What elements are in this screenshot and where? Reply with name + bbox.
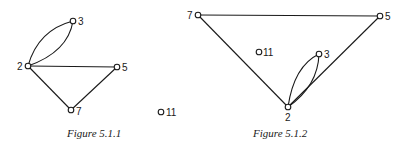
edge-7-2: [198, 15, 288, 107]
node-label-2: 2: [17, 61, 23, 72]
node-5: [377, 13, 383, 19]
node-2: [285, 104, 291, 110]
figure-5-1-1: 2 3 5 7 11 Figure 5.1.1: [17, 16, 177, 139]
edge-2-5: [28, 66, 117, 67]
graph-figures: 2 3 5 7 11 Figure 5.1.1 7 5 11 3 2 Figur…: [0, 0, 407, 144]
node-7: [68, 107, 74, 113]
node-label-7: 7: [76, 106, 82, 117]
node-label-5: 5: [122, 62, 128, 73]
node-5: [114, 64, 120, 70]
edge-2-3-a: [28, 21, 73, 66]
edge-2-5: [288, 16, 380, 107]
node-3: [316, 51, 322, 57]
edge-7-5: [71, 67, 117, 110]
figure-caption: Figure 5.1.1: [66, 127, 121, 139]
figure-caption: Figure 5.1.2: [252, 127, 308, 139]
figure-5-1-2: 7 5 11 3 2 Figure 5.1.2: [187, 10, 391, 139]
node-label-7: 7: [187, 10, 193, 21]
node-11: [256, 49, 262, 55]
node-label-3: 3: [324, 49, 330, 60]
node-label-3: 3: [78, 16, 84, 27]
edge-7-5: [198, 15, 380, 16]
node-3: [70, 18, 76, 24]
edge-2-7: [28, 66, 71, 110]
node-7: [195, 12, 201, 18]
node-label-11: 11: [263, 47, 274, 58]
node-label-2: 2: [285, 112, 291, 123]
edge-2-3-b: [28, 21, 73, 66]
node-label-11: 11: [166, 107, 177, 118]
node-2: [25, 63, 31, 69]
node-label-5: 5: [385, 11, 391, 22]
node-11: [158, 109, 164, 115]
